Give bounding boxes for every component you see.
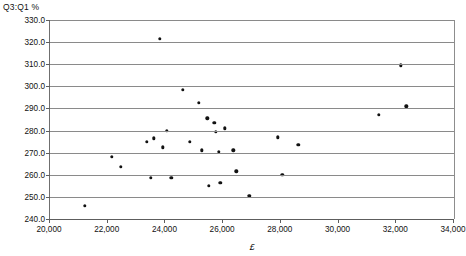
data-point [296,143,299,146]
x-tick-mark [395,219,396,223]
x-tick-label: 28,000 [267,225,292,234]
x-tick-label: 22,000 [94,225,119,234]
data-point [223,127,226,130]
gridline-horizontal [50,86,454,87]
y-tick-label: 290.0 [25,104,46,113]
data-point [145,140,148,143]
data-point [149,176,152,179]
plot-area [50,20,454,219]
x-tick-mark [107,219,108,223]
gridline-horizontal [50,197,454,198]
data-point [219,181,222,184]
y-tick-mark [46,64,50,65]
y-tick-label: 250.0 [25,192,46,201]
x-tick-mark [49,219,50,223]
y-tick-mark [46,175,50,176]
data-point [188,140,191,143]
x-tick-mark [164,219,165,223]
y-tick-mark [46,86,50,87]
data-point [110,155,113,158]
x-tick-label: 26,000 [210,225,235,234]
data-point [207,184,210,187]
gridline-horizontal [50,175,454,176]
y-axis-labels: 240.0250.0260.0270.0280.0290.0300.0310.0… [0,0,45,256]
x-axis-title: £ [49,242,455,252]
x-tick-mark [222,219,223,223]
data-point [158,37,161,40]
plot-frame [49,20,455,219]
y-tick-mark [46,20,50,21]
y-tick-mark [46,131,50,132]
data-point [161,145,164,148]
y-tick-label: 280.0 [25,126,46,135]
x-tick-label: 32,000 [383,225,408,234]
y-tick-label: 270.0 [25,148,46,157]
y-tick-label: 330.0 [25,16,46,25]
y-tick-label: 240.0 [25,215,46,224]
data-point [83,204,86,207]
y-tick-mark [46,197,50,198]
y-tick-mark [46,42,50,43]
x-tick-mark [453,219,454,223]
gridline-horizontal [50,20,454,21]
x-tick-label: 34,000 [440,225,465,234]
x-tick-label: 20,000 [36,225,61,234]
gridline-horizontal [50,131,454,132]
data-point [234,170,237,173]
y-tick-mark [46,108,50,109]
data-point [181,88,184,91]
gridline-horizontal [50,153,454,154]
y-tick-label: 310.0 [25,60,46,69]
gridline-horizontal [50,42,454,43]
data-point [377,113,380,116]
y-tick-mark [46,153,50,154]
x-tick-label: 24,000 [152,225,177,234]
y-tick-label: 260.0 [25,170,46,179]
data-point [276,135,279,138]
x-tick-mark [280,219,281,223]
data-point [213,121,216,124]
data-point [169,176,172,179]
x-tick-mark [338,219,339,223]
gridline-horizontal [50,108,454,109]
x-axis: £ 20,00022,00024,00026,00028,00030,00032… [49,219,455,256]
data-point [232,149,235,152]
x-tick-label: 30,000 [325,225,350,234]
data-point [200,149,203,152]
y-tick-label: 320.0 [25,38,46,47]
gridline-horizontal [50,64,454,65]
data-point [152,137,155,140]
y-tick-label: 300.0 [25,82,46,91]
data-point [197,101,200,104]
data-point [119,165,122,168]
data-point [206,117,209,120]
data-point [405,105,408,108]
